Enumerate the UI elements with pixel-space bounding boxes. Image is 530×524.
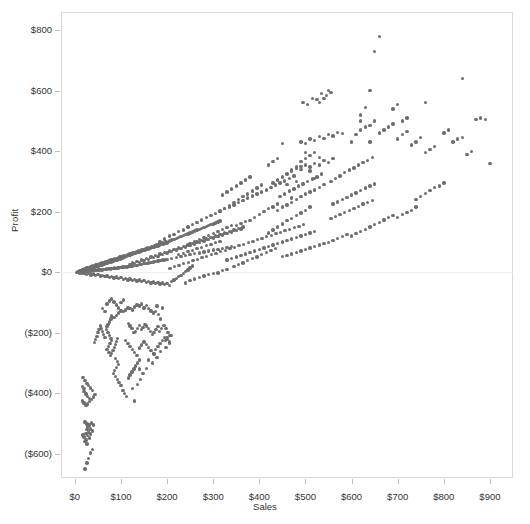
data-point [301,101,304,104]
data-point [304,163,307,166]
data-point [216,230,219,233]
data-point [285,254,288,257]
data-point [278,195,281,198]
data-point [329,91,332,94]
data-point [164,346,167,349]
data-point [322,183,325,186]
data-point [186,250,189,253]
data-point [241,199,244,202]
data-point [313,230,316,233]
data-point [91,389,94,392]
data-point [318,156,321,159]
data-point [151,361,154,364]
data-point [193,277,196,280]
data-point [401,213,404,216]
x-tick-mark [75,479,76,484]
data-point [318,101,321,104]
y-tick-label-text: $400 [31,146,52,156]
data-point [89,451,92,454]
y-tick-mark [55,212,60,213]
data-point [354,191,357,194]
data-point [131,387,134,390]
data-point [308,246,311,249]
data-point [140,328,143,331]
data-point [357,205,360,208]
data-point [168,284,171,287]
data-point [270,234,273,237]
data-point [267,207,270,210]
data-point [313,162,316,165]
data-point [387,125,390,128]
data-point [304,151,307,154]
data-point [359,128,362,131]
data-point [255,192,258,195]
data-point [474,118,477,121]
data-point [320,92,323,95]
data-point [308,137,311,140]
data-point [248,219,251,222]
data-point [424,101,427,104]
y-tick-mark [55,272,60,273]
y-axis-title: Profit [9,209,20,232]
data-point [350,234,353,237]
data-point [88,436,91,439]
data-point [256,238,259,241]
data-point [157,313,160,316]
data-point [205,255,208,258]
y-tick-mark [55,151,60,152]
data-point [218,240,221,243]
data-point [119,384,122,387]
x-tick-mark [444,479,445,484]
data-point [299,234,302,237]
data-point [235,184,238,187]
data-point [419,195,422,198]
data-point [297,225,300,228]
x-tick-mark [259,479,260,484]
data-point [260,253,263,256]
data-point [168,267,171,270]
data-point [262,210,265,213]
data-point [302,223,305,226]
data-point [322,159,325,162]
data-point [338,213,341,216]
data-point [304,233,307,236]
data-point [241,225,244,228]
data-point [251,189,254,192]
data-point [140,343,143,346]
data-point [145,367,148,370]
data-point [158,342,161,345]
data-point [193,252,196,255]
data-point [373,50,376,53]
data-point [368,124,371,127]
data-point [299,140,302,143]
data-point [244,220,247,223]
data-point [327,241,330,244]
data-point [283,229,286,232]
data-point [111,349,114,352]
data-point [232,265,235,268]
data-point [456,137,459,140]
data-point [170,334,173,337]
data-point [255,255,258,258]
data-point [202,274,205,277]
data-point [341,235,344,238]
y-tick-label-text: ($200) [25,328,52,338]
data-point [182,228,185,231]
data-point [366,201,369,204]
data-point [239,181,242,184]
data-point [242,243,245,246]
data-point [195,221,198,224]
data-point [479,116,482,119]
data-point [269,186,272,189]
data-point [359,230,362,233]
data-point [488,162,491,165]
data-point [103,310,106,313]
y-tick-label-text: ($600) [25,449,52,459]
data-point [348,168,351,171]
data-point [221,193,224,196]
data-point [419,136,422,139]
data-point [248,175,251,178]
data-point [295,166,298,169]
data-point [304,209,307,212]
data-point [438,184,441,187]
